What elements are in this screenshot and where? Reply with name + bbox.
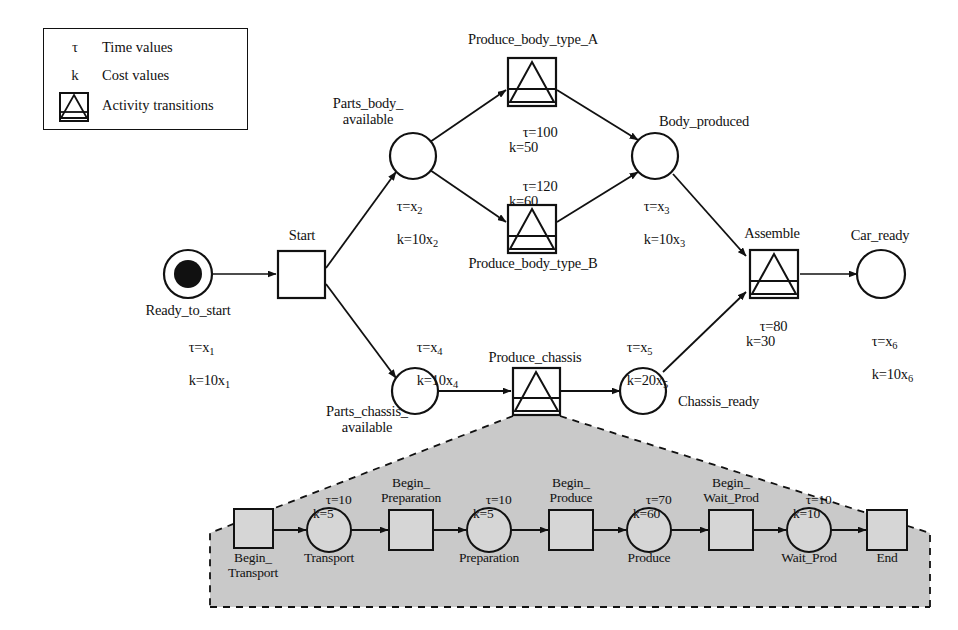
transition-begin-preparation[interactable] [389, 510, 433, 550]
label-begin-preparation: Begin_ Preparation [381, 476, 441, 505]
diagram-canvas: τ Time values k Cost values Activity tra… [0, 0, 958, 630]
label-produce-body-type-a: Produce_body_type_A [468, 32, 598, 48]
annotation-wait-prod: τ=10k=10 [793, 478, 831, 536]
label-start: Start [289, 228, 315, 244]
legend-label-cost-values: Cost values [102, 67, 169, 84]
annotation-body-produced: τ=x3 k=10x3 [630, 183, 685, 264]
annotation-produce-body-type-b: τ=120k=60 [509, 163, 557, 226]
annotation-car-ready: τ=x6 k=10x6 [858, 318, 913, 399]
place-car-ready[interactable] [857, 250, 905, 298]
legend-label-activity-transitions: Activity transitions [102, 97, 214, 114]
legend-label-time-values: Time values [102, 39, 173, 56]
label-parts-chassis-available: Parts_chassis_ available [326, 404, 408, 435]
label-end: End [876, 551, 897, 566]
label-begin-wait-prod: Begin_ Wait_Prod [703, 476, 759, 505]
transition-end[interactable] [867, 510, 907, 550]
label-car-ready: Car_ready [851, 228, 910, 244]
label-parts-body-available: Parts_body_ available [333, 96, 403, 127]
place-body-produced[interactable] [632, 133, 678, 179]
label-transport: Transport [304, 551, 354, 566]
label-assemble: Assemble [744, 226, 800, 242]
label-begin-produce: Begin_ Produce [550, 476, 593, 505]
transition-produce-chassis[interactable] [513, 368, 560, 415]
annotation-assemble: τ=80k=30 [746, 303, 787, 366]
label-produce-body-type-b: Produce_body_type_B [468, 256, 597, 272]
label-produce: Produce [628, 551, 671, 566]
tau-symbol: τ [62, 39, 88, 56]
legend-box: τ Time values k Cost values Activity tra… [43, 28, 248, 130]
annotation-parts-chassis-available: τ=x4 k=10x4 [403, 324, 458, 405]
label-begin-transport: Begin_ Transport [228, 551, 278, 580]
transition-begin-produce[interactable] [549, 510, 593, 550]
transition-begin-wait-prod[interactable] [709, 510, 753, 550]
label-wait-prod: Wait_Prod [781, 551, 837, 566]
label-preparation: Preparation [459, 551, 519, 566]
label-chassis-ready: Chassis_ready [678, 394, 759, 410]
place-ready-to-start[interactable] [164, 250, 212, 298]
transition-produce-body-type-a[interactable] [508, 58, 556, 106]
k-symbol: k [62, 67, 88, 84]
label-produce-chassis: Produce_chassis [489, 350, 582, 366]
place-parts-body-available[interactable] [390, 133, 436, 179]
transition-start[interactable] [278, 251, 325, 298]
annotation-ready-to-start: τ=x1 k=10x1 [175, 324, 230, 405]
annotation-chassis-ready: τ=x5 k=20x5 [613, 324, 668, 405]
annotation-preparation: τ=10k=5 [473, 478, 511, 536]
transition-begin-transport[interactable] [234, 509, 273, 548]
token-dot [174, 260, 202, 288]
annotation-parts-body-available: τ=x2 k=10x2 [383, 183, 438, 264]
activity-transition-icon [58, 91, 90, 123]
annotation-transport: τ=10k=5 [313, 478, 351, 536]
label-body-produced: Body_produced [659, 114, 749, 130]
label-ready-to-start: Ready_to_start [146, 303, 231, 319]
annotation-produce: τ=70k=60 [633, 478, 671, 536]
transition-assemble[interactable] [750, 250, 798, 298]
